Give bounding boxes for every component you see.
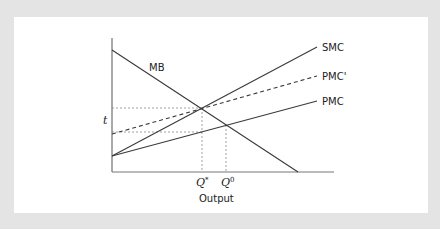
mb-label: MB [149, 62, 165, 73]
q-zero-label: Q0 [221, 176, 235, 189]
mb-curve [112, 50, 298, 172]
pmc-prime-label: PMC' [322, 71, 346, 82]
pmc-label: PMC [322, 96, 344, 107]
q-star-label: Q* [196, 176, 209, 189]
externality-diagram: MB SMC PMC' PMC t Q* Q0 Output [0, 0, 440, 229]
pmc-prime-curve [112, 76, 317, 134]
tax-label: t [103, 114, 108, 127]
smc-curve [112, 47, 317, 156]
x-axis-label: Output [199, 193, 234, 204]
smc-label: SMC [322, 42, 344, 53]
pmc-curve [112, 101, 317, 156]
